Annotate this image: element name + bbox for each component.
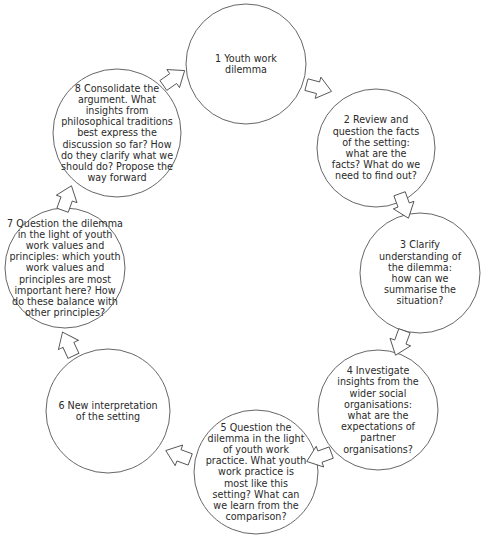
step-1-label: 1 Youth work dilemma	[206, 4, 286, 124]
step-4-label: 4 Investigate insights from the wider so…	[333, 350, 423, 470]
step-6-label: 6 New interpretation of the setting	[58, 349, 158, 473]
step-5-label: 5 Question the dilemma in the light of y…	[205, 410, 307, 534]
arrow-5-to-6-icon	[162, 440, 194, 470]
step-7-label: 7 Question the dilemma in the light of y…	[7, 208, 123, 328]
step-2-label: 2 Review and question the facts of the s…	[330, 89, 422, 207]
step-3-label: 3 Clarify understanding of the dilemma: …	[378, 213, 462, 333]
step-8-label: 8 Consolidate the argument. What insight…	[58, 69, 176, 197]
